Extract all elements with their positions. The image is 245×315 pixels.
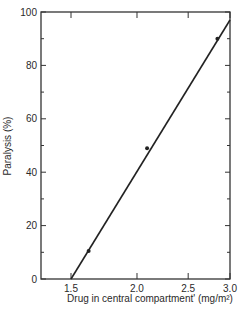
x-axis-label: Drug in central compartment' (mg/m²) <box>67 293 233 304</box>
data-point <box>145 146 149 150</box>
y-axis-ticks: 020406080100 <box>20 7 230 285</box>
data-series <box>71 20 230 279</box>
y-tick-label: 40 <box>26 167 38 178</box>
y-tick-label: 80 <box>26 60 38 71</box>
y-tick-label: 100 <box>20 7 37 18</box>
y-tick-label: 60 <box>26 113 38 124</box>
y-axis-label: Paralysis (%) <box>2 117 13 176</box>
y-tick-label: 20 <box>26 220 38 231</box>
regression-line <box>71 20 230 279</box>
chart: 020406080100 1.52.02.53.0 Drug in centra… <box>0 0 245 315</box>
plot-frame <box>41 12 230 279</box>
y-tick-label: 0 <box>31 274 37 285</box>
axes-box <box>41 12 230 279</box>
